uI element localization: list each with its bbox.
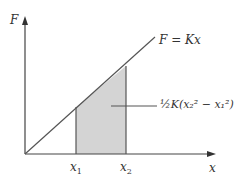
area-label: ½K(x₂² − x₁²) [160,99,234,110]
x2-label: x2 [120,161,132,176]
x-axis-label: x [209,162,216,174]
work-diagram: F x F = Kx x1 x2 ½K(x₂² − x₁²) [0,0,238,177]
x-axis-arrow-icon [207,151,216,157]
x1-label: x1 [70,161,82,176]
y-axis-label: F [10,14,18,26]
diagram-graphics [0,0,238,177]
y-axis-arrow-icon [22,16,28,25]
line-label: F = Kx [159,34,201,46]
shaded-area [76,66,126,154]
